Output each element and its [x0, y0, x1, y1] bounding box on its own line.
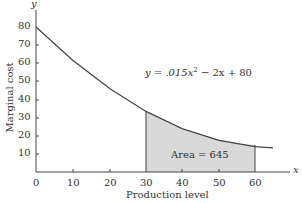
equation-rest: − 2x + 80 [198, 67, 252, 78]
y-tick-label: 70 [18, 38, 31, 49]
y-tick-label: 10 [18, 147, 31, 158]
chart-canvas [0, 0, 302, 203]
x-tick-label: 20 [104, 177, 117, 188]
x-tick-label: 30 [140, 177, 153, 188]
y-tick-label: 60 [18, 56, 31, 67]
y-axis-symbol: y [31, 0, 37, 9]
y-tick-label: 80 [18, 20, 31, 31]
x-axis-symbol: x [293, 164, 299, 175]
shaded-area [146, 111, 255, 172]
y-axis-title: Marginal cost [4, 62, 15, 132]
y-tick-label: 20 [18, 129, 31, 140]
x-tick-label: 50 [213, 177, 226, 188]
x-tick-label: 0 [33, 177, 39, 188]
equation-main: y = .015x [145, 67, 193, 78]
equation-annotation: y = .015x2 − 2x + 80 [145, 66, 252, 78]
x-tick-label: 60 [249, 177, 262, 188]
y-tick-label: 30 [18, 111, 31, 122]
x-axis-title: Production level [126, 189, 209, 200]
y-tick-label: 40 [18, 93, 31, 104]
y-tick-label: 50 [18, 74, 31, 85]
x-tick-label: 40 [176, 177, 189, 188]
x-tick-label: 10 [67, 177, 80, 188]
area-annotation: Area = 645 [171, 149, 229, 160]
